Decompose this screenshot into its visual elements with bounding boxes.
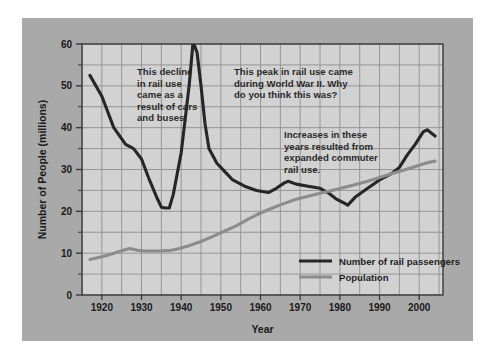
y-tick-label: 30: [61, 164, 73, 175]
y-tick-label: 20: [61, 206, 73, 217]
y-tick-label: 40: [61, 122, 73, 133]
x-tick-label: 1940: [170, 302, 193, 313]
x-tick-label: 1960: [249, 302, 272, 313]
y-axis-title: Number of People (millions): [36, 100, 48, 239]
annotation-line: This peak in rail use came: [234, 66, 353, 77]
x-tick-label: 1930: [130, 302, 153, 313]
x-tick-label: 1920: [91, 302, 114, 313]
annotation-line: in rail use: [137, 78, 182, 89]
y-tick-label: 50: [61, 80, 73, 91]
annotation-line: years resulted from: [284, 141, 373, 152]
annotation-line: result of cars: [137, 101, 197, 112]
x-tick-label: 1990: [368, 302, 391, 313]
y-tick-label: 0: [66, 290, 72, 301]
annotation-wwii-peak: This peak in rail use cameduring World W…: [234, 66, 353, 100]
chart-figure-card: 192019301940195019601970198019902000 010…: [22, 18, 473, 341]
screenshot-root: 192019301940195019601970198019902000 010…: [0, 0, 493, 360]
line-chart: 192019301940195019601970198019902000 010…: [22, 18, 473, 341]
annotation-line: during World War II. Why: [234, 78, 348, 89]
x-tick-label: 1980: [329, 302, 352, 313]
annotation-line: Increases in these: [284, 129, 367, 140]
legend-label-population: Population: [339, 272, 389, 283]
legend-label-rail-passengers: Number of rail passengers: [339, 256, 460, 267]
annotation-line: do you think this was?: [234, 89, 338, 100]
x-axis-title: Year: [251, 323, 273, 335]
x-tick-label: 1970: [289, 302, 312, 313]
y-tick-label: 10: [61, 248, 73, 259]
annotation-line: rail use.: [284, 164, 320, 175]
annotation-line: expanded commuter: [284, 152, 378, 163]
x-tick-label: 1950: [210, 302, 233, 313]
x-axis-tick-labels: 192019301940195019601970198019902000: [91, 302, 431, 313]
x-tick-label: 2000: [408, 302, 431, 313]
annotation-line: and buses.: [137, 112, 187, 123]
y-tick-label: 60: [61, 39, 73, 50]
y-axis-tick-labels: 0102030405060: [61, 39, 73, 301]
annotation-line: came as a: [137, 89, 184, 100]
annotation-line: This decline: [137, 66, 192, 77]
